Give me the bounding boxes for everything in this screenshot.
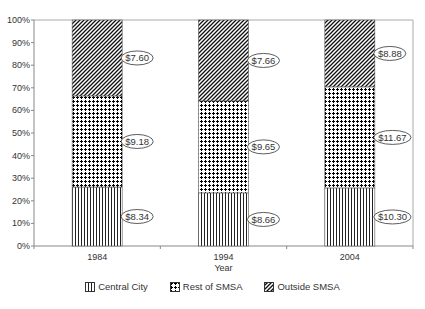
y-tick-label: 20% [12, 196, 30, 206]
svg-text:$7.66: $7.66 [252, 55, 276, 66]
y-tick-label: 0% [17, 241, 30, 251]
legend-item-rest-of-smsa: Rest of SMSA [170, 281, 243, 292]
y-tick-label: 70% [12, 83, 30, 93]
legend-label: Rest of SMSA [183, 281, 243, 292]
x-axis-title: Year [214, 263, 232, 273]
bar-segment-rest-of-smsa [199, 101, 249, 193]
value-label: $9.18 [121, 134, 153, 148]
bar-2004: $10.30$11.67$8.88 [325, 20, 411, 246]
x-tick-label: 1984 [87, 252, 107, 262]
y-tick-label: 10% [12, 218, 30, 228]
svg-text:$8.34: $8.34 [125, 211, 149, 222]
y-tick-label: 40% [12, 151, 30, 161]
bar-segment-rest-of-smsa [325, 87, 375, 188]
y-tick-label: 90% [12, 38, 30, 48]
legend-label: Central City [98, 281, 148, 292]
bar-segment-rest-of-smsa [72, 96, 122, 187]
legend-item-central-city: Central City [85, 281, 148, 292]
vertical-lines-swatch-icon [85, 282, 95, 292]
svg-text:$7.60: $7.60 [125, 52, 149, 63]
value-label: $8.88 [374, 46, 406, 60]
plot-area: 0%10%20%30%40%50%60%70%80%90%100%$8.34$9… [7, 15, 413, 273]
legend: Central City Rest of SMSA Outside SMSA [0, 281, 425, 292]
y-tick-label: 30% [12, 173, 30, 183]
stacked-bar-chart: 0%10%20%30%40%50%60%70%80%90%100%$8.34$9… [0, 0, 425, 280]
y-tick-label: 80% [12, 60, 30, 70]
x-tick-label: 2004 [340, 252, 360, 262]
bar-1984: $8.34$9.18$7.60 [72, 20, 153, 246]
bar-segment-outside-smsa [72, 20, 122, 96]
svg-text:$8.66: $8.66 [252, 214, 276, 225]
svg-text:$9.18: $9.18 [125, 136, 149, 147]
bar-segment-central-city [199, 193, 249, 246]
value-label: $11.67 [374, 130, 411, 144]
value-label: $10.30 [374, 210, 411, 224]
x-tick-label: 1994 [213, 252, 233, 262]
y-tick-label: 60% [12, 105, 30, 115]
legend-item-outside-smsa: Outside SMSA [264, 281, 339, 292]
diagonal-lines-swatch-icon [264, 282, 274, 292]
value-label: $7.60 [121, 51, 153, 65]
value-label: $7.66 [248, 53, 280, 67]
bar-segment-outside-smsa [325, 20, 375, 87]
bar-segment-central-city [325, 188, 375, 246]
value-label: $8.66 [248, 212, 280, 226]
svg-text:$10.30: $10.30 [378, 211, 407, 222]
y-tick-label: 50% [12, 128, 30, 138]
value-label: $8.34 [121, 210, 153, 224]
bar-segment-outside-smsa [199, 20, 249, 101]
svg-text:$9.65: $9.65 [252, 141, 276, 152]
svg-text:$11.67: $11.67 [378, 132, 406, 143]
bar-1994: $8.66$9.65$7.66 [199, 20, 280, 246]
y-tick-label: 100% [7, 15, 30, 25]
checker-swatch-icon [170, 282, 180, 292]
bar-segment-central-city [72, 187, 122, 246]
svg-text:$8.88: $8.88 [378, 48, 402, 59]
value-label: $9.65 [248, 140, 280, 154]
legend-label: Outside SMSA [277, 281, 339, 292]
